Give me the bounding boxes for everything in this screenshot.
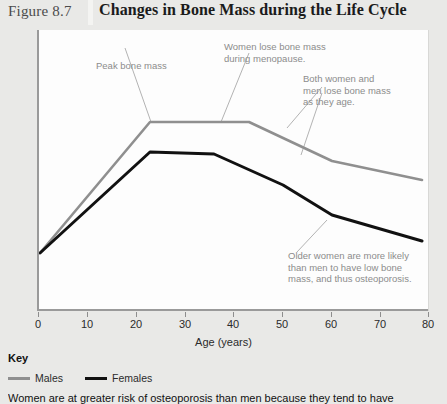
x-tick-label: 0 xyxy=(35,318,41,330)
figure-header: Figure 8.7 Changes in Bone Mass during t… xyxy=(0,0,447,26)
x-tick-mark xyxy=(136,312,137,317)
x-tick-mark xyxy=(87,312,88,317)
x-tick-label: 70 xyxy=(374,318,386,330)
legend-swatch-females-icon xyxy=(85,377,107,380)
x-tick-label: 20 xyxy=(130,318,142,330)
annotation-leader-lines xyxy=(125,48,327,252)
x-tick-mark xyxy=(38,312,39,317)
legend-item-males: Males xyxy=(8,372,63,384)
x-tick-mark xyxy=(233,312,234,317)
chart-legend: Males Females xyxy=(8,372,152,384)
x-tick-label: 50 xyxy=(276,318,288,330)
x-tick-mark xyxy=(428,312,429,317)
annotation-peak-bone-mass: Peak bone mass xyxy=(96,60,167,72)
figure-caption: Women are at greater risk of osteoporosi… xyxy=(8,392,440,404)
legend-swatch-males-icon xyxy=(8,377,30,380)
annotation-older-women: Older women are more likely than men to … xyxy=(288,250,412,285)
x-tick-mark xyxy=(380,312,381,317)
x-tick-mark xyxy=(331,312,332,317)
annotation-menopause: Women lose bone mass during menopause. xyxy=(224,41,326,64)
figure-title: Changes in Bone Mass during the Life Cyc… xyxy=(99,1,407,19)
annotation-both-lose-mass: Both women and men lose bone mass as the… xyxy=(303,73,391,108)
series-line-males xyxy=(40,122,422,253)
legend-label-females: Females xyxy=(112,372,152,384)
legend-label-males: Males xyxy=(35,372,63,384)
figure-container: Figure 8.7 Changes in Bone Mass during t… xyxy=(0,0,447,404)
x-tick-mark xyxy=(185,312,186,317)
header-divider xyxy=(88,0,93,25)
x-axis-label: Age (years) xyxy=(0,336,447,348)
x-tick-label: 30 xyxy=(179,318,191,330)
x-tick-mark xyxy=(282,312,283,317)
figure-number: Figure 8.7 xyxy=(8,3,72,20)
x-tick-label: 10 xyxy=(81,318,93,330)
x-tick-label: 40 xyxy=(227,318,239,330)
legend-item-females: Females xyxy=(85,372,152,384)
x-tick-label: 60 xyxy=(325,318,337,330)
key-heading: Key xyxy=(8,352,28,364)
x-tick-label: 80 xyxy=(422,318,434,330)
